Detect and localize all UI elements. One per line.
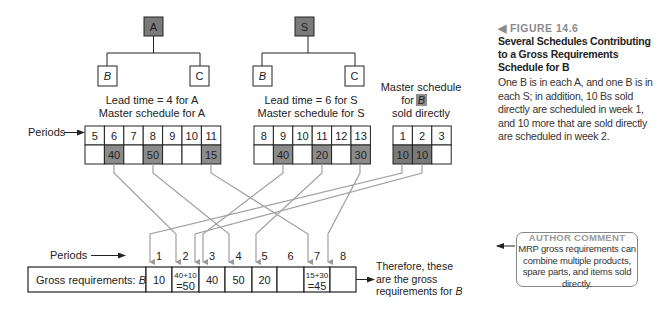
quantity-cell: 40 <box>108 149 120 161</box>
period-cell: 11 <box>205 130 216 142</box>
author-comment-text: MRP gross requirements can combine multi… <box>517 243 637 289</box>
child-label-b-s: B <box>259 70 266 82</box>
quantity-cell: 40 <box>277 149 289 161</box>
quantity-cell: 20 <box>316 149 328 161</box>
quantity-cell: 10 <box>416 149 428 161</box>
direct-sales-line1: Master schedule <box>381 81 462 93</box>
gross-value-cell: 40+10 <box>174 271 197 280</box>
quantity-cell: 30 <box>355 149 367 161</box>
figure-title: Several Schedules Contributing to a Gros… <box>498 35 660 74</box>
lead-time-a: Lead time = 4 for A <box>106 94 199 106</box>
quantity-cell: 15 <box>205 149 217 161</box>
gross-requirements-note: Therefore, these are the gross requireme… <box>376 260 462 297</box>
child-label-c-s: C <box>351 70 359 82</box>
period-cell: 12 <box>335 130 347 142</box>
svg-text:2: 2 <box>182 250 188 262</box>
gross-value-cell: 20 <box>258 274 270 286</box>
gross-requirements-label: Gross requirements: B <box>36 274 146 286</box>
product-structure-a: A B C Lead time = 4 for A Master schedul… <box>98 17 209 119</box>
gross-value-cell: =50 <box>176 280 195 292</box>
svg-text:5: 5 <box>261 250 267 262</box>
figure-label: ◀ FIGURE 14.6 <box>498 22 660 34</box>
svg-text:1: 1 <box>156 250 162 262</box>
period-cell: 9 <box>280 130 286 142</box>
master-schedule-s-label: Master schedule for S <box>258 107 365 119</box>
period-cell: 10 <box>296 130 308 142</box>
gross-value-cell: =45 <box>308 280 327 292</box>
period-cell: 2 <box>419 130 425 142</box>
svg-text:4: 4 <box>235 250 241 262</box>
author-comment-box: AUTHOR COMMENT MRP gross requirements ca… <box>516 232 638 287</box>
svg-text:3: 3 <box>209 250 215 262</box>
offset-arrows <box>114 164 422 262</box>
period-cell: 1 <box>400 130 406 142</box>
gross-value-cell: 10 <box>153 274 165 286</box>
child-label-c: C <box>196 70 204 82</box>
periods-label-top: Periods <box>28 126 66 138</box>
gross-requirements-periods: 1 2 3 4 5 6 7 8 <box>156 250 346 262</box>
gross-value-cell: 15+30 <box>306 271 329 280</box>
figure-description: One B is in each A, and one B is in each… <box>498 76 660 144</box>
svg-text:6: 6 <box>287 250 293 262</box>
period-cell: 5 <box>92 130 98 142</box>
author-comment-heading: AUTHOR COMMENT <box>517 232 637 243</box>
svg-text:7: 7 <box>314 250 320 262</box>
period-cell: 9 <box>169 130 175 142</box>
master-schedule-s-table: 8 9 10 11 12 13 40 20 30 <box>254 126 370 164</box>
svg-text:8: 8 <box>340 250 346 262</box>
quantity-cell: 10 <box>397 149 409 161</box>
period-cell: 13 <box>355 130 367 142</box>
period-cell: 8 <box>150 130 156 142</box>
gross-requirements-table: Gross requirements: B 10 40+10 =50 40 50… <box>28 267 356 292</box>
period-cell: 3 <box>438 130 444 142</box>
parent-label-s: S <box>301 21 308 33</box>
direct-sales-for: for <box>401 94 414 106</box>
master-schedule-a-label: Master schedule for A <box>99 107 206 119</box>
child-label-b: B <box>104 70 111 82</box>
master-schedule-b-direct-table: 1 2 3 10 10 <box>393 126 451 164</box>
figure-caption: ◀ FIGURE 14.6 Several Schedules Contribu… <box>498 22 660 144</box>
product-structure-s: S B C Lead time = 6 for S Master schedul… <box>253 17 365 119</box>
direct-sales-line3: sold directly <box>392 107 451 119</box>
gross-value-cell: 40 <box>206 274 218 286</box>
svg-text:are the gross: are the gross <box>376 273 437 285</box>
svg-text:Therefore, these: Therefore, these <box>376 260 453 272</box>
period-cell: 7 <box>130 130 136 142</box>
direct-sales-label: Master schedule for B sold directly <box>381 81 462 119</box>
svg-text:requirements for B: requirements for B <box>376 285 462 297</box>
direct-sales-item: B <box>418 94 425 106</box>
lead-time-s: Lead time = 6 for S <box>264 94 357 106</box>
gross-value-cell: 50 <box>232 274 244 286</box>
period-cell: 11 <box>316 130 327 142</box>
periods-label-bottom: Periods <box>50 249 88 261</box>
quantity-cell: 50 <box>147 149 159 161</box>
period-cell: 6 <box>111 130 117 142</box>
master-schedule-a-table: 5 6 7 8 9 10 11 40 50 15 <box>85 126 221 164</box>
parent-label-a: A <box>150 21 158 33</box>
period-cell: 8 <box>261 130 267 142</box>
period-cell: 10 <box>186 130 198 142</box>
